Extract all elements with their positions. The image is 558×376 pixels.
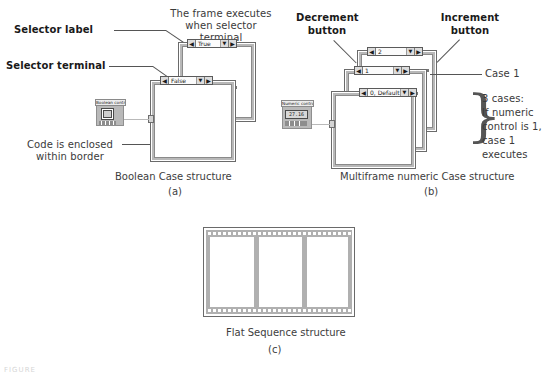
perforation [348, 232, 351, 235]
figure-footer: FIGURE [4, 366, 36, 374]
decrement-button-icon[interactable]: ◀ [161, 77, 169, 84]
leader-line-selector-label [114, 30, 166, 31]
perforation [228, 232, 231, 235]
perforation [268, 232, 271, 235]
increment-button-icon[interactable]: ▶ [204, 77, 212, 84]
frame-inner-false [154, 84, 232, 158]
perforation [248, 309, 251, 312]
perforation [213, 232, 216, 235]
leader-line-case-1 [430, 74, 482, 75]
case-selector-false[interactable]: ◀ False ▼ ▶ [160, 76, 213, 85]
leader-line-increment [437, 39, 460, 62]
perforation [303, 232, 306, 235]
caption-panel-a: Boolean Case structure [115, 171, 232, 182]
annotation-decrement-button: Decrement button [296, 11, 358, 37]
perforation [308, 309, 311, 312]
perforation [333, 309, 336, 312]
case-selector-2[interactable]: ◀ 2 ▼ ▶ [367, 47, 423, 56]
figure-canvas: Selector label Selector terminal The fra… [0, 0, 558, 376]
boolean-control-label: Boolean control [95, 99, 126, 106]
chevron-down-icon[interactable]: ▼ [406, 48, 414, 55]
perforation [288, 309, 291, 312]
subcaption-panel-b: (b) [424, 186, 438, 197]
perforation [238, 232, 241, 235]
perforation [253, 309, 256, 312]
increment-button-icon[interactable]: ▶ [414, 48, 422, 55]
case-selector-1[interactable]: ◀ 1 ▼ ▶ [354, 66, 410, 75]
perforation [323, 309, 326, 312]
annotation-selector-label: Selector label [14, 24, 93, 36]
perforation [253, 232, 256, 235]
boolean-control-strip-5 [113, 121, 114, 125]
boolean-control-strip-4 [109, 121, 110, 125]
perforation [273, 309, 276, 312]
perforation [238, 309, 241, 312]
numeric-control-strip-4 [299, 121, 300, 126]
perforation [283, 309, 286, 312]
perforation [223, 309, 226, 312]
annotation-case-1: Case 1 [485, 68, 520, 80]
perforation [263, 309, 266, 312]
perforation [263, 232, 266, 235]
decrement-button-icon[interactable]: ◀ [360, 89, 368, 96]
perforation [213, 309, 216, 312]
flat-sequence-structure[interactable] [203, 227, 355, 317]
perforation [298, 309, 301, 312]
perforation [233, 309, 236, 312]
perforation [218, 232, 221, 235]
perforation [243, 309, 246, 312]
perforation [293, 309, 296, 312]
chevron-down-icon[interactable]: ▼ [220, 40, 228, 47]
perforation [288, 232, 291, 235]
perforation [273, 232, 276, 235]
perforation [258, 309, 261, 312]
frame-inner-0 [335, 95, 412, 165]
perforation [258, 232, 261, 235]
perforation [228, 309, 231, 312]
boolean-control-strip-3 [105, 121, 106, 125]
perforation [323, 232, 326, 235]
perforation [318, 232, 321, 235]
perforation [218, 309, 221, 312]
case-selector-0[interactable]: ◀ 0, Default ▼ ▶ [359, 88, 417, 97]
perforation [328, 232, 331, 235]
perforation [208, 309, 211, 312]
increment-button-icon[interactable]: ▶ [408, 89, 416, 96]
case-selector-label-2: 2 [376, 48, 406, 55]
chevron-down-icon[interactable]: ▼ [393, 67, 401, 74]
increment-button-icon[interactable]: ▶ [401, 67, 409, 74]
wire-boolean-to-selector [122, 119, 149, 120]
caption-panel-c: Flat Sequence structure [226, 327, 346, 338]
chevron-down-icon[interactable]: ▼ [400, 89, 408, 96]
case-selector-label-0: 0, Default [368, 89, 400, 96]
subcaption-panel-a: (a) [168, 186, 182, 197]
case-selector-label-1: 1 [363, 67, 393, 74]
perforation [338, 309, 341, 312]
flat-sequence-divider-2 [302, 237, 307, 307]
case-selector-true[interactable]: ◀ True ▼ ▶ [187, 39, 237, 48]
perforation [313, 232, 316, 235]
annotation-selector-terminal: Selector terminal [6, 60, 106, 72]
perforation [243, 232, 246, 235]
perforation [278, 232, 281, 235]
perforation [208, 232, 211, 235]
perforation [233, 232, 236, 235]
subcaption-panel-c: (c) [268, 344, 281, 355]
flat-sequence-right-edge [348, 237, 352, 307]
perforation [348, 309, 351, 312]
case-frame-false[interactable] [150, 80, 236, 162]
case-frame-0[interactable] [331, 91, 416, 169]
numeric-control-value[interactable]: 27.16 [285, 110, 308, 119]
perforation [223, 232, 226, 235]
decrement-button-icon[interactable]: ◀ [368, 48, 376, 55]
case-selector-label-true: True [196, 40, 220, 47]
increment-button-icon[interactable]: ▶ [228, 40, 236, 47]
perforation [278, 309, 281, 312]
perforation [318, 309, 321, 312]
perforation [328, 309, 331, 312]
decrement-button-icon[interactable]: ◀ [188, 40, 196, 47]
decrement-button-icon[interactable]: ◀ [355, 67, 363, 74]
flat-sequence-bottom-rail [206, 307, 352, 314]
perforation [343, 309, 346, 312]
chevron-down-icon[interactable]: ▼ [196, 77, 204, 84]
